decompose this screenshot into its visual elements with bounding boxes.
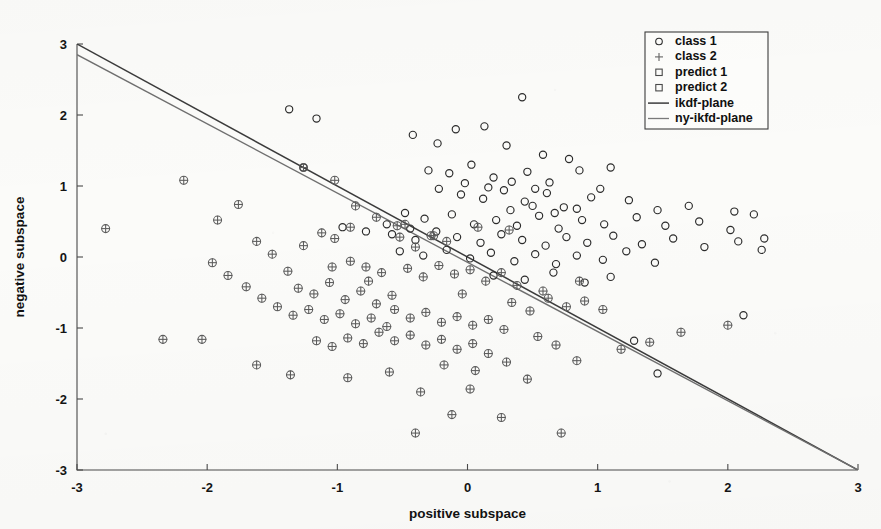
plot-canvas: -3-2-10123-3-2-10123positive subspaceneg…	[0, 0, 881, 529]
y-tick-label: 3	[60, 37, 67, 52]
legend-label-ikdf-plane: ikdf-plane	[675, 96, 734, 110]
data-point-class-1	[588, 194, 595, 201]
data-point-class-1	[685, 202, 692, 209]
data-point-class-1	[481, 123, 488, 130]
data-point-class-2	[411, 243, 420, 252]
data-point-class-1	[701, 243, 708, 250]
x-tick-label: -3	[71, 480, 83, 495]
data-point-class-1	[487, 249, 494, 256]
data-point-class-2	[497, 268, 506, 277]
data-point-class-1	[453, 234, 460, 241]
data-point-class-1	[670, 235, 677, 242]
data-point-class-1	[662, 222, 669, 229]
data-point-class-2	[179, 176, 188, 185]
data-point-class-1	[573, 252, 580, 259]
data-point-class-1	[651, 259, 658, 266]
data-point-class-1	[409, 131, 416, 138]
data-point-class-1	[452, 126, 459, 133]
data-point-class-2	[484, 349, 493, 358]
data-point-class-1	[396, 248, 403, 255]
data-point-class-2	[505, 226, 514, 235]
data-point-class-2	[283, 267, 292, 276]
data-point-class-1	[339, 224, 346, 231]
data-point-class-1	[468, 161, 475, 168]
data-point-class-1	[633, 214, 640, 221]
data-point-class-2	[575, 277, 584, 286]
data-point-class-1	[597, 185, 604, 192]
data-point-class-2	[299, 241, 308, 250]
data-point-class-2	[401, 220, 410, 229]
y-axis-label: negative subspace	[12, 196, 27, 317]
data-point-class-2	[437, 318, 446, 327]
data-point-class-2	[328, 342, 337, 351]
data-point-class-1	[623, 248, 630, 255]
data-point-class-2	[257, 294, 266, 303]
data-point-class-1	[543, 190, 550, 197]
data-point-class-2	[286, 370, 295, 379]
data-point-class-2	[159, 335, 168, 344]
data-point-class-2	[617, 345, 626, 354]
data-point-class-1	[535, 212, 542, 219]
data-point-class-1	[480, 195, 487, 202]
data-point-class-2	[325, 278, 334, 287]
data-point-class-1	[581, 279, 588, 286]
data-point-class-2	[502, 358, 511, 367]
data-point-class-2	[346, 257, 355, 266]
data-point-class-2	[385, 368, 394, 377]
data-point-class-2	[252, 237, 261, 246]
data-point-class-2	[252, 361, 261, 370]
data-point-class-2	[453, 345, 462, 354]
legend-label-class 1: class 1	[675, 34, 717, 48]
data-point-class-1	[513, 222, 520, 229]
data-point-class-1	[584, 239, 591, 246]
data-point-class-2	[557, 429, 566, 438]
data-point-class-1	[286, 106, 293, 113]
data-point-class-2	[388, 291, 397, 300]
data-point-class-2	[341, 295, 350, 304]
y-tick-label: 0	[60, 250, 67, 265]
data-point-class-2	[213, 216, 222, 225]
data-point-class-1	[696, 218, 703, 225]
data-point-class-1	[529, 202, 536, 209]
data-point-class-2	[317, 228, 326, 237]
data-point-class-2	[390, 305, 399, 314]
data-point-class-2	[356, 287, 365, 296]
legend-label-predict 2: predict 2	[675, 80, 727, 94]
data-point-class-2	[484, 315, 493, 324]
data-point-class-1	[542, 242, 549, 249]
data-point-class-2	[198, 335, 207, 344]
data-point-class-1	[758, 246, 765, 253]
legend-label-predict 1: predict 1	[675, 65, 727, 79]
data-point-class-1	[500, 187, 507, 194]
x-tick-label: -2	[201, 480, 213, 495]
data-point-class-2	[343, 334, 352, 343]
data-point-class-1	[490, 174, 497, 181]
data-point-class-2	[471, 366, 480, 375]
data-point-class-2	[411, 429, 420, 438]
data-point-class-1	[550, 269, 557, 276]
data-point-class-2	[562, 302, 571, 311]
data-point-class-2	[481, 277, 490, 286]
data-point-class-1	[546, 179, 553, 186]
data-point-class-1	[610, 232, 617, 239]
data-point-class-1	[524, 168, 531, 175]
data-point-class-2	[552, 341, 561, 350]
data-point-class-1	[362, 228, 369, 235]
data-point-class-1	[401, 209, 408, 216]
data-point-class-2	[526, 307, 535, 316]
data-point-class-2	[377, 268, 386, 277]
data-point-class-2	[453, 312, 462, 321]
legend-label-ny-ikfd-plane: ny-ikfd-plane	[675, 111, 753, 125]
data-point-class-2	[500, 325, 509, 334]
data-point-class-2	[359, 339, 368, 348]
data-point-class-1	[654, 207, 661, 214]
data-point-class-1	[457, 191, 464, 198]
data-point-class-2	[723, 321, 732, 330]
data-point-class-2	[421, 308, 430, 317]
data-point-class-2	[268, 250, 277, 259]
data-point-class-2	[224, 271, 233, 280]
data-point-class-2	[572, 356, 581, 365]
data-point-class-1	[521, 276, 528, 283]
data-point-class-2	[580, 297, 589, 306]
x-tick-label: 3	[854, 480, 861, 495]
